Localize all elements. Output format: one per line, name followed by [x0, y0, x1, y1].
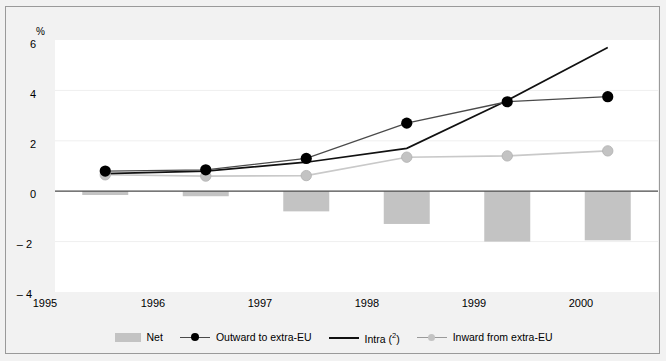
line-grey-dot-icon	[417, 332, 447, 342]
x-tick-1997: 1997	[230, 297, 290, 309]
marker-inward-from-extra-eu-1999	[502, 151, 512, 161]
chart-frame: % 6 4 2 0 – 2 – 4	[5, 6, 660, 354]
bar-net-1997	[283, 191, 329, 211]
legend-item-outward-to-extra-eu[interactable]: Outward to extra-EU	[180, 331, 312, 343]
plot-area	[55, 40, 658, 292]
line-black-icon	[329, 332, 359, 342]
legend-label-net: Net	[147, 331, 163, 343]
legend-label-outward-to-extra-eu: Outward to extra-EU	[216, 331, 312, 343]
x-tick-1999: 1999	[444, 297, 504, 309]
legend-label-inward-from-extra-eu: Inward from extra-EU	[453, 331, 553, 343]
series-markers-outward-to-extra-eu	[100, 91, 614, 177]
legend-item-net[interactable]: Net	[115, 331, 163, 343]
marker-outward-to-extra-eu-1998	[401, 118, 412, 129]
y-tick-2: 2	[10, 138, 36, 150]
marker-inward-from-extra-eu-2000	[603, 146, 613, 156]
legend-item-intra[interactable]: Intra (2)	[329, 330, 400, 345]
marker-outward-to-extra-eu-1999	[502, 96, 513, 107]
series-line-outward-to-extra-eu	[105, 97, 608, 171]
bar-net-1999	[484, 191, 530, 241]
x-tick-2000: 2000	[551, 297, 611, 309]
line-black-dot-icon	[180, 332, 210, 342]
bar-net-2000	[585, 191, 631, 240]
x-tick-1998: 1998	[337, 297, 397, 309]
bars-net-series	[82, 191, 631, 241]
x-tick-1996: 1996	[123, 297, 183, 309]
chart-legend: Net Outward to extra-EU Intra (2)	[6, 330, 661, 345]
marker-outward-to-extra-eu-1996	[200, 164, 211, 175]
chart-figure: % 6 4 2 0 – 2 – 4	[0, 0, 666, 361]
chart-canvas	[55, 40, 658, 292]
marker-inward-from-extra-eu-1998	[402, 152, 412, 162]
legend-item-inward-from-extra-eu[interactable]: Inward from extra-EU	[417, 331, 553, 343]
marker-outward-to-extra-eu-2000	[602, 91, 613, 102]
y-tick-neg2: – 2	[6, 238, 32, 250]
bar-net-1996	[183, 191, 229, 196]
marker-inward-from-extra-eu-1997	[301, 170, 311, 180]
marker-outward-to-extra-eu-1997	[301, 153, 312, 164]
bar-swatch-icon	[115, 333, 141, 342]
marker-outward-to-extra-eu-1995	[100, 165, 111, 176]
y-tick-4: 4	[10, 88, 36, 100]
y-tick-0: 0	[10, 188, 36, 200]
y-tick-6: 6	[10, 38, 36, 50]
x-tick-1995: 1995	[15, 297, 75, 309]
bar-net-1998	[384, 191, 430, 224]
y-axis-unit-label: %	[36, 26, 45, 38]
legend-label-intra: Intra (2)	[365, 330, 400, 345]
